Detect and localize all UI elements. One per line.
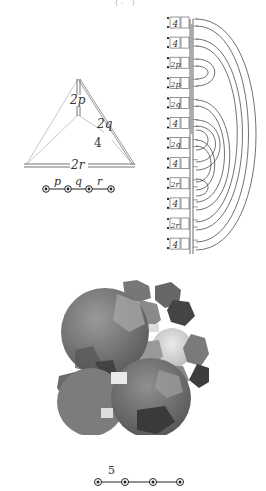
tetrahedron-svg: 2p 2q 4 2r	[20, 70, 140, 175]
ringed-node-icon	[43, 186, 50, 193]
row-label: 2q	[170, 140, 181, 149]
row-label: 4	[172, 119, 179, 129]
row-label: 2q	[170, 100, 181, 109]
row-label: 4	[172, 240, 179, 250]
polytope-render	[55, 280, 220, 435]
edge-label-inner: 4	[94, 136, 102, 150]
top-fragment	[0, 0, 266, 8]
coxeter-diagram-pqr: p q r	[38, 175, 118, 195]
branch-label-5: 5	[108, 464, 115, 477]
row-label: 2r	[170, 180, 181, 189]
row-label: 4	[172, 19, 179, 29]
edge-label-vertical: 2p	[69, 93, 86, 107]
edge-label-right: 2q	[96, 117, 113, 131]
coxeter-bottom-svg: 5	[90, 462, 190, 490]
row-label: 4	[172, 39, 179, 49]
row-label: 4	[172, 199, 179, 209]
row-label: 2p	[170, 80, 181, 89]
ringed-node-icon	[122, 479, 129, 486]
tetrahedron-diagram: 2p 2q 4 2r	[20, 70, 140, 175]
ringed-node-icon	[177, 479, 184, 486]
ringed-node-icon	[150, 479, 157, 486]
edge-label-base: 2r	[70, 158, 86, 172]
branch-label-r: r	[97, 175, 103, 188]
row-label: 2r	[170, 221, 181, 230]
branch-label-p: p	[54, 175, 61, 188]
ringed-node-icon	[108, 186, 115, 193]
ringed-node-icon	[65, 186, 72, 193]
connection-graph-svg: 442p2p2q42q42r42r4	[166, 14, 266, 260]
coxeter-pqr-svg: p q r	[38, 175, 118, 195]
coxeter-diagram-bottom: 5	[90, 462, 190, 490]
branch-label-q: q	[75, 175, 82, 188]
connection-graph-diagram: 442p2p2q42q42r42r4	[166, 14, 266, 260]
ringed-node-icon	[86, 186, 93, 193]
row-label: 4	[172, 159, 179, 169]
polytope-render-svg	[55, 280, 220, 435]
row-label: 2p	[170, 60, 181, 69]
ringed-node-icon	[95, 479, 102, 486]
